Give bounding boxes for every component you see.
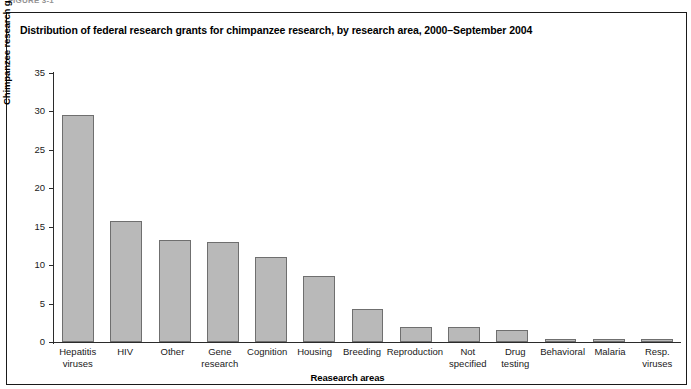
bar-slot (585, 73, 633, 342)
bar[interactable] (545, 339, 577, 342)
bar[interactable] (207, 242, 239, 342)
y-axis-tick-label: 35 (34, 67, 45, 78)
x-axis-category-label: HIV (101, 346, 148, 369)
bar[interactable] (255, 257, 287, 342)
bar-slot (54, 73, 102, 342)
y-axis-tick-mark (49, 342, 54, 343)
y-axis-tick-label: 10 (34, 259, 45, 270)
x-axis-category-label: Malaria (586, 346, 633, 369)
bar-slot (536, 73, 584, 342)
x-axis-category-label: Cognition (244, 346, 291, 369)
bar-slot (440, 73, 488, 342)
bar[interactable] (62, 115, 94, 342)
y-axis-tick-label: 15 (34, 221, 45, 232)
bar[interactable] (448, 327, 480, 342)
y-axis-tick-label: 5 (40, 298, 45, 309)
y-axis-tick-label: 0 (40, 336, 45, 347)
figure-root: FIGURE 3-1 Distribution of federal resea… (0, 0, 691, 389)
x-axis-category-label: Resp.viruses (634, 346, 681, 369)
bar-slot (392, 73, 440, 342)
x-axis-title: Reasearch areas (7, 372, 688, 383)
bar-slot (199, 73, 247, 342)
x-axis-line (53, 342, 681, 343)
bar-slot (295, 73, 343, 342)
bar-slot (102, 73, 150, 342)
y-axis-tick-label: 25 (34, 144, 45, 155)
bar[interactable] (593, 339, 625, 342)
x-axis-category-label: Drugtesting (492, 346, 539, 369)
x-axis-category-label: Behavioral (539, 346, 586, 369)
bar[interactable] (496, 330, 528, 342)
x-axis-category-label: Generesearch (196, 346, 243, 369)
bar-slot (633, 73, 681, 342)
bar[interactable] (110, 221, 142, 342)
bar-slot (488, 73, 536, 342)
figure-number-label: FIGURE 3-1 (8, 0, 54, 6)
x-axis-category-label: Breeding (338, 346, 385, 369)
x-axis-category-label: Hepatitisviruses (54, 346, 101, 369)
bar[interactable] (352, 309, 384, 342)
bar[interactable] (303, 276, 335, 342)
bar-slot (247, 73, 295, 342)
y-axis-tick-label: 30 (34, 105, 45, 116)
bar-series (54, 73, 681, 342)
chart-panel: Distribution of federal research grants … (6, 12, 687, 385)
y-axis-tick-label: 20 (34, 182, 45, 193)
bar[interactable] (400, 327, 432, 342)
bar[interactable] (159, 240, 191, 342)
y-axis-title: Chimpanzee research grants, by percentag… (1, 0, 12, 105)
bar-slot (343, 73, 391, 342)
x-axis-category-label: Notspecified (444, 346, 491, 369)
x-axis-category-labels: HepatitisvirusesHIVOtherGeneresearchCogn… (54, 346, 681, 369)
x-axis-category-label: Reproduction (386, 346, 445, 369)
x-axis-category-label: Other (149, 346, 196, 369)
chart-title: Distribution of federal research grants … (20, 24, 532, 36)
bar[interactable] (641, 339, 673, 342)
x-axis-category-label: Housing (291, 346, 338, 369)
bar-slot (150, 73, 198, 342)
